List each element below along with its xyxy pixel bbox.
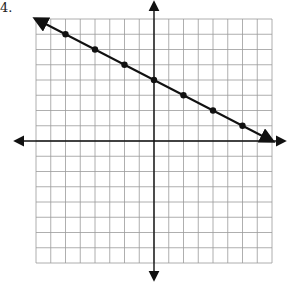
data-point xyxy=(92,46,98,52)
data-point xyxy=(210,107,216,113)
data-point xyxy=(180,92,186,98)
data-point xyxy=(239,123,245,129)
coordinate-plane xyxy=(0,0,288,283)
data-point xyxy=(151,77,157,83)
data-point xyxy=(121,62,127,68)
data-point xyxy=(62,31,68,37)
